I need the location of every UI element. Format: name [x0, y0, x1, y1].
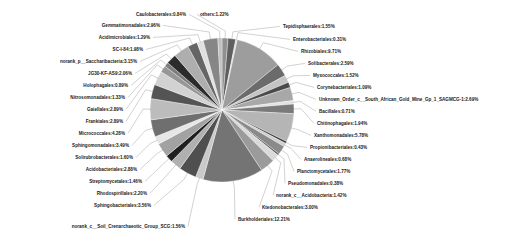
leader-line — [293, 109, 314, 124]
leader-line — [281, 63, 305, 70]
label-rhizobiales: Rhizobiales:9.71% — [301, 49, 341, 54]
label-micrococcales: Micrococcales:4.28% — [79, 131, 125, 136]
label-caulobacterales: Caulobacterales:0.84% — [136, 12, 186, 17]
leader-line — [188, 177, 200, 226]
label-enterobacteriales: Enterobacteriales:0.31% — [293, 37, 346, 42]
leader-line — [154, 172, 188, 205]
label-myxococcales: Myxococcales:1.52% — [313, 73, 359, 78]
label-norank-p-saccharibacteria: norank_p__Saccharibacteria:3.15% — [60, 59, 137, 64]
leader-line — [163, 25, 211, 40]
leader-line — [136, 140, 158, 157]
leader-line — [278, 154, 285, 183]
leader-line — [150, 164, 176, 193]
label-nitrosomonadales: Nitrosomonadales:1.33% — [70, 95, 125, 100]
label-xanthomonadales: Xanthomonadales:5.78% — [314, 133, 368, 138]
label-others: others:1.22% — [200, 12, 229, 17]
leader-line — [285, 142, 307, 147]
leader-line — [236, 33, 290, 41]
leader-line — [286, 75, 310, 79]
label-frankiales: Frankiales:2.89% — [86, 119, 123, 124]
label-burkholderiales: Burkholderiales:12.21% — [238, 217, 290, 222]
label-tepidisphaerales: Tepidisphaerales:1.55% — [283, 24, 335, 29]
label-unknown-order-sagmcg1: Unknown_Order_c__South_African_Gold_Mine… — [319, 97, 478, 102]
pie-chart-figure: others:1.22% Tepidisphaerales:1.55% Ente… — [0, 0, 507, 240]
label-ktedonobacterales: Ktedonobacterales:3.00% — [262, 205, 318, 210]
leader-line — [289, 82, 315, 87]
label-gemmatimonadales: Gemmatimonadales:2.96% — [102, 23, 160, 28]
leader-line — [281, 150, 294, 172]
label-norank-c-acidobacteria: norank_c__Acidobacteria:1.42% — [276, 193, 346, 198]
leader-line — [291, 92, 316, 99]
leader-line — [132, 128, 153, 145]
leader-line — [284, 145, 301, 160]
label-acidobacteriales: Acidobacteriales:2.88% — [86, 167, 137, 172]
leader-line — [140, 150, 163, 170]
label-propionibacteriales: Propionibacteriales:0.43% — [310, 145, 367, 150]
label-jg30-kf-as9: JG30-KF-AS9:2.06% — [88, 71, 132, 76]
leader-line — [273, 157, 281, 195]
pie-chart-svg: others:1.22% Tepidisphaerales:1.55% Ente… — [0, 0, 507, 240]
leader-line — [259, 165, 272, 208]
label-corynebacteriales: Corynebacteriales:1.09% — [317, 85, 371, 90]
leader-line — [126, 90, 153, 122]
leader-line — [189, 14, 220, 39]
label-chitinophagales: Chitinophagales:1.94% — [317, 121, 367, 126]
label-sc-i-84: SC-I-84:1.98% — [113, 47, 143, 52]
leader-line — [197, 14, 225, 39]
label-anaerolineales: Anaerolineales:0.68% — [304, 157, 351, 162]
label-solirubrobacterales: Solirubrobacterales:1.60% — [75, 155, 133, 160]
leader-line — [232, 26, 280, 39]
leader-line — [233, 180, 235, 219]
label-bacillales: Bacillales:0.71% — [319, 109, 355, 114]
label-planctomycetales: Planctomycetales:1.77% — [297, 169, 350, 174]
label-solibacterales: Solibacterales:2.59% — [308, 61, 354, 66]
leader-line — [259, 43, 298, 52]
label-sphingobacteriales: Sphingobacteriales:3.56% — [94, 203, 151, 208]
label-sphingomonadales: Sphingomonadales:3.49% — [72, 143, 129, 148]
label-streptomycetales: Streptomycetales:1.46% — [89, 179, 142, 184]
label-rhodospirillales: Rhodospirillales:2.20% — [97, 191, 147, 196]
label-norank-c-soil-scg: norank_c__Soil_Crenarchaeotic_Group_SCG:… — [72, 224, 185, 229]
label-acidimicrobiales: Acidimicrobiales:1.29% — [99, 35, 150, 40]
label-pseudomonadales: Pseudomonadales:0.38% — [288, 181, 343, 186]
leader-line — [291, 128, 311, 136]
leader-line — [293, 102, 316, 112]
label-holophagales: Holophagales:0.89% — [83, 83, 128, 88]
label-gaiellales: Gaiellales:2.89% — [87, 107, 123, 112]
